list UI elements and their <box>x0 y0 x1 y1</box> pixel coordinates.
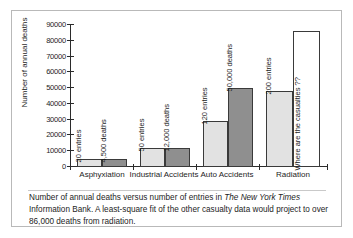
y-tick-9 <box>67 24 74 25</box>
bar-auto-deaths[interactable] <box>228 88 253 167</box>
caption-text-part1: Number of annual deaths versus number of… <box>29 193 224 202</box>
caption-divider <box>28 190 326 191</box>
y-tick-label-3: 30000 <box>6 116 66 124</box>
y-tick-6 <box>67 71 74 72</box>
y-tick-8 <box>67 40 74 41</box>
bar-radiation-entries[interactable] <box>266 91 293 167</box>
bar-label-industrial-entries: 50 entries <box>138 119 146 152</box>
y-tick-label-6: 60000 <box>6 68 66 76</box>
x-category-label-radiation: Radiation <box>258 170 328 180</box>
x-category-label-auto: Auto Accidents <box>193 170 261 180</box>
bar-label-radiation-entries: 200 entries <box>265 57 273 94</box>
bar-label-radiation-projected: Where are the casualties ?? <box>294 77 302 170</box>
y-tick-label-1: 10000 <box>6 147 66 155</box>
bar-label-industrial-deaths: 12,000 deaths <box>163 104 171 152</box>
y-tick-4 <box>67 103 74 104</box>
y-tick-3 <box>67 119 74 120</box>
y-tick-7 <box>67 56 74 57</box>
y-tick-5 <box>67 87 74 88</box>
x-category-label-industrial: Industrial Accidents <box>129 170 199 180</box>
figure-caption: Number of annual deaths versus number of… <box>29 192 329 228</box>
bar-label-auto-deaths: 50,000 deaths <box>226 44 234 92</box>
y-tick-label-0: 0 <box>6 163 66 171</box>
bar-label-auto-entries: 120 entries <box>201 87 209 124</box>
bar-auto-entries[interactable] <box>203 121 228 167</box>
caption-source-title: The New York Times <box>224 193 300 202</box>
y-tick-label-7: 70000 <box>6 53 66 61</box>
y-tick-label-5: 50000 <box>6 84 66 92</box>
y-tick-label-9: 90000 <box>6 21 66 29</box>
y-axis-line <box>70 24 71 167</box>
bar-label-asphyxiation-deaths: 4,500 deaths <box>100 119 108 162</box>
y-tick-label-4: 40000 <box>6 100 66 108</box>
y-tick-label-2: 20000 <box>6 131 66 139</box>
y-tick-label-8: 80000 <box>6 37 66 45</box>
figure-container: Number of annual deaths 0 10000 20000 30… <box>0 0 353 238</box>
bar-label-asphyxiation-entries: 20 entries <box>75 130 83 163</box>
caption-text-part2: Information Bank. A least-square fit of … <box>29 205 328 226</box>
